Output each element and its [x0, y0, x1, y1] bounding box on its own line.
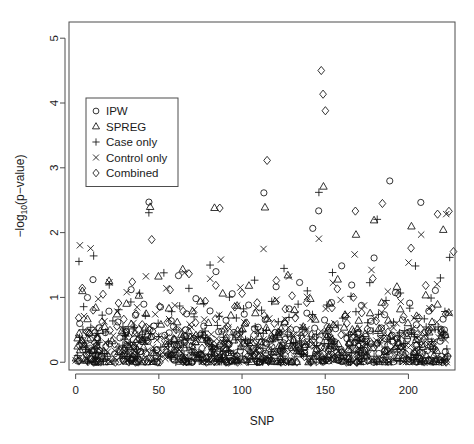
point-cross [405, 259, 411, 265]
point-triangle [135, 292, 143, 299]
point-circle [261, 190, 267, 196]
point-diamond [450, 248, 457, 256]
point-triangle [123, 300, 131, 307]
point-plus [251, 276, 259, 284]
point-triangle [408, 222, 416, 229]
point-diamond [408, 244, 415, 252]
y-tick-label: 0 [48, 359, 60, 365]
scatter-plot: 050100150200012345SNP−log10(p−value) IPW… [0, 0, 474, 444]
x-tick-label: 100 [232, 384, 251, 396]
point-triangle [205, 319, 213, 326]
point-diamond [309, 336, 316, 344]
point-cross [260, 246, 266, 252]
point-triangle [355, 317, 363, 324]
point-cross [434, 281, 440, 287]
point-plus [206, 261, 214, 269]
point-cross [385, 288, 391, 294]
point-diamond [148, 235, 155, 243]
point-circle [229, 291, 235, 297]
point-cross [191, 306, 197, 312]
point-circle [175, 273, 181, 279]
point-diamond [358, 309, 365, 317]
point-cross [134, 304, 140, 310]
point-circle [201, 323, 207, 329]
point-circle [371, 255, 377, 261]
point-cross [337, 297, 343, 303]
point-circle [321, 317, 327, 323]
point-cross [351, 251, 357, 257]
point-circle [304, 310, 310, 316]
point-cross [344, 311, 350, 317]
point-diamond [231, 303, 238, 311]
point-circle [241, 311, 247, 317]
point-cross [322, 306, 328, 312]
point-diamond [318, 66, 325, 74]
point-triangle [261, 203, 269, 210]
point-plus [160, 269, 168, 277]
axes-layer: 050100150200012345SNP−log10(p−value) [13, 35, 418, 428]
point-triangle [439, 226, 447, 233]
point-circle [432, 287, 438, 293]
point-diamond [129, 278, 136, 286]
point-plus [127, 298, 135, 306]
point-triangle [146, 203, 154, 210]
point-cross [368, 267, 374, 273]
point-cross [95, 296, 101, 302]
point-diamond [334, 285, 341, 293]
point-diamond [422, 281, 429, 289]
point-cross [201, 316, 207, 322]
point-diamond [120, 315, 127, 323]
point-circle [102, 330, 108, 336]
point-triangle [84, 315, 92, 322]
point-triangle [219, 289, 227, 296]
x-tick-label: 150 [316, 384, 335, 396]
legend-label: Case only [106, 136, 157, 148]
point-cross [418, 231, 424, 237]
point-plus [315, 188, 323, 196]
point-circle [418, 199, 424, 205]
point-circle [349, 282, 355, 288]
point-circle [141, 301, 147, 307]
point-circle [84, 294, 90, 300]
point-diamond [254, 299, 261, 307]
point-cross [143, 273, 149, 279]
point-plus [168, 308, 176, 316]
legend-label: SPREG [106, 121, 146, 133]
point-plus [443, 345, 451, 353]
point-cross [273, 297, 279, 303]
point-diamond [239, 289, 246, 297]
point-plus [75, 258, 83, 266]
y-tick-label: 4 [48, 99, 60, 106]
point-plus [80, 303, 88, 311]
y-tick-label: 2 [48, 229, 60, 235]
point-plus [329, 269, 337, 277]
y-tick-label: 1 [48, 294, 60, 300]
point-cross [132, 331, 138, 337]
point-cross [218, 256, 224, 262]
point-diamond [264, 156, 271, 164]
point-triangle [352, 231, 360, 238]
svg-text:−log10(p−value): −log10(p−value) [13, 155, 29, 238]
point-plus [412, 262, 420, 270]
legend-label: Combined [106, 167, 158, 179]
point-triangle [393, 283, 401, 290]
point-plus [352, 308, 360, 316]
point-plus [79, 326, 87, 334]
point-cross [398, 298, 404, 304]
point-circle [106, 308, 112, 314]
point-triangle [245, 282, 253, 289]
point-triangle [366, 309, 374, 316]
point-diamond [114, 322, 121, 330]
point-cross [77, 242, 83, 248]
point-plus [437, 274, 445, 282]
point-cross [214, 335, 220, 341]
point-plus [226, 293, 234, 301]
legend-label: IPW [106, 105, 128, 117]
point-diamond [289, 292, 296, 300]
point-diamond [379, 199, 386, 207]
point-cross [87, 245, 93, 251]
point-cross [268, 329, 274, 335]
point-diamond [322, 107, 329, 115]
point-circle [440, 316, 446, 322]
point-circle [90, 277, 96, 283]
